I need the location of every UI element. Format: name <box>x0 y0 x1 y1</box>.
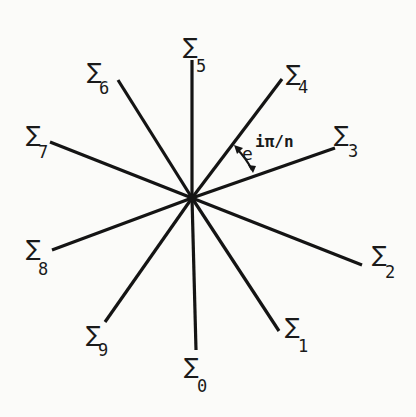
subscript: 0 <box>197 376 207 396</box>
sigma-symbol: ∑ <box>334 122 349 147</box>
subscript: 5 <box>196 56 206 76</box>
subscript: 2 <box>385 262 395 282</box>
subscript: 8 <box>38 259 48 279</box>
arrowhead-down-icon <box>248 165 256 173</box>
ray-sigma-1 <box>192 198 279 331</box>
origin-point <box>189 195 196 202</box>
subscript: 4 <box>298 77 308 97</box>
subscript: 3 <box>348 141 358 161</box>
ray-sigma-7 <box>50 142 192 198</box>
subscript: 1 <box>298 336 308 356</box>
label-sigma-6: ∑ 6 <box>87 59 109 98</box>
angle-base: e <box>242 143 253 164</box>
label-sigma-2: ∑ 2 <box>372 242 395 282</box>
label-sigma-5: ∑ 5 <box>183 34 206 76</box>
ray-sigma-2 <box>192 198 362 265</box>
ray-sigma-8 <box>52 198 192 250</box>
label-sigma-8: ∑ 8 <box>26 236 48 279</box>
label-sigma-0: ∑ 0 <box>184 354 207 396</box>
subscript: 7 <box>38 142 48 162</box>
subscript: 9 <box>98 340 108 360</box>
ray-labels: ∑ 5 ∑ 4 ∑ 6 ∑ 3 ∑ 7 ∑ 2 ∑ 8 <box>26 34 395 396</box>
subscript: 6 <box>99 78 109 98</box>
label-sigma-7: ∑ 7 <box>26 122 48 162</box>
sigma-symbol: ∑ <box>26 236 41 261</box>
label-sigma-4: ∑ 4 <box>286 61 308 97</box>
label-sigma-1: ∑ 1 <box>285 314 308 356</box>
label-sigma-3: ∑ 3 <box>334 122 358 161</box>
rays <box>50 60 362 350</box>
sector-diagram: ∑ 5 ∑ 4 ∑ 6 ∑ 3 ∑ 7 ∑ 2 ∑ 8 <box>0 0 416 417</box>
ray-sigma-3 <box>192 148 335 198</box>
ray-sigma-0 <box>192 198 196 350</box>
label-sigma-9: ∑ 9 <box>86 322 108 360</box>
angle-exponent: iπ/n <box>255 132 294 151</box>
ray-sigma-9 <box>105 198 192 322</box>
ray-sigma-6 <box>118 80 192 198</box>
